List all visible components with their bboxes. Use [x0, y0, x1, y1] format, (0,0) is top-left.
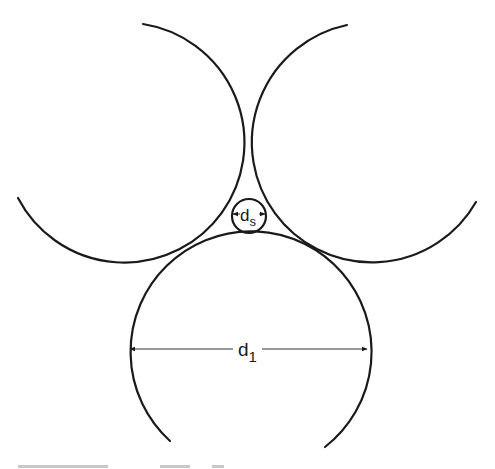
- figure-caption-clipped: [0, 463, 240, 469]
- caption-fragment: [18, 465, 108, 468]
- packing-diagram: ds d1: [0, 0, 495, 469]
- upper-right-circle-arc: [252, 25, 476, 262]
- large-diameter-label: d1: [238, 339, 257, 365]
- caption-fragment: [212, 465, 224, 468]
- small-diameter-label: ds: [240, 206, 256, 229]
- bottom-circle-arc: [131, 231, 372, 447]
- upper-left-circle-arc: [18, 24, 244, 263]
- caption-fragment: [160, 465, 190, 468]
